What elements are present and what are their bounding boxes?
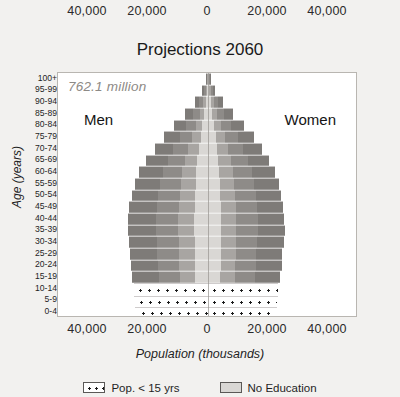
segment-education-stratum-outer [129,236,157,248]
segment-no-education [201,131,208,143]
bar-men-65-69 [146,155,208,167]
segment-education-stratum-mid [157,236,179,248]
bar-men-70-74 [155,143,208,155]
segment-no-education [199,143,208,155]
segment-no-education [195,248,208,260]
x-tick-0: 40,000 [67,322,106,336]
bar-men-55-59 [135,178,208,190]
segment-under15 [135,295,208,309]
pyramid-row [58,96,356,108]
segment-education-stratum-mid [236,213,257,225]
segment-education-stratum-inner [217,143,228,155]
segment-education-stratum-inner [221,213,236,225]
bar-women-65-69 [208,155,269,167]
age-tick-75-79: 75-79 [35,132,57,141]
segment-education-stratum-inner [220,178,234,190]
segment-education-stratum-mid [236,248,257,260]
x-axis-title: Population (thousands) [0,347,400,361]
age-tick-90-94: 90-94 [35,97,57,106]
segment-education-stratum-inner [179,260,194,272]
segment-no-education [195,236,208,248]
legend-swatch-1 [220,382,242,393]
bar-men-45-49 [129,201,208,213]
segment-education-stratum-mid [156,213,178,225]
segment-education-stratum-outer [185,108,193,120]
segment-education-stratum-outer [164,131,179,143]
segment-no-education [208,155,218,167]
y-axis-title: Age (years) [10,129,24,225]
bar-men-30-34 [129,236,208,248]
segment-no-education [208,260,221,272]
segment-education-stratum-outer [128,213,156,225]
segment-education-stratum-inner [192,131,201,143]
bar-women-40-44 [208,213,284,225]
bar-women-55-59 [208,178,279,190]
segment-no-education [208,166,219,178]
segment-education-stratum-outer [224,108,233,120]
chart-legend: Pop. < 15 yrsNo Education [0,378,400,397]
legend-item-1[interactable]: No Education [220,382,317,394]
segment-education-stratum-inner [221,248,236,260]
age-tick-70-74: 70-74 [35,144,57,153]
segment-no-education [208,213,221,225]
segment-education-stratum-mid [235,190,255,202]
pyramid-row [58,190,356,202]
age-tick-65-69: 65-69 [35,155,57,164]
bar-women-35-39 [208,225,285,237]
segment-under15 [208,283,278,297]
bar-men-25-29 [130,248,208,260]
segment-education-stratum-outer [256,190,282,202]
x-tick-3: 20,000 [247,322,286,336]
segment-education-stratum-inner [221,201,236,213]
age-tick-55-59: 55-59 [35,179,57,188]
segment-education-stratum-mid [236,236,257,248]
segment-education-stratum-inner [188,143,199,155]
age-tick-85-89: 85-89 [35,109,57,118]
segment-education-stratum-outer [155,143,174,155]
segment-under15 [134,283,208,297]
segment-education-stratum-inner [180,271,195,283]
segment-education-stratum-outer [218,96,223,108]
segment-education-stratum-inner [221,260,236,272]
segment-education-stratum-outer [257,201,283,213]
segment-education-stratum-inner [221,236,236,248]
segment-education-stratum-mid [158,190,179,202]
segment-education-stratum-inner [179,236,195,248]
segment-education-stratum-inner [220,271,234,283]
bar-men-40-44 [128,213,208,225]
segment-no-education [194,213,208,225]
segment-education-stratum-outer [238,131,254,143]
pyramid-row [58,260,356,272]
segment-education-stratum-outer [128,225,156,237]
segment-education-stratum-outer [243,143,262,155]
pyramid-row [58,178,356,190]
legend-item-0[interactable]: Pop. < 15 yrs [83,382,179,394]
segment-education-stratum-outer [256,260,282,272]
pyramid-row [58,201,356,213]
segment-education-stratum-mid [163,166,182,178]
segment-no-education [196,166,208,178]
segment-education-stratum-outer [213,85,216,97]
bar-men-90-94 [195,96,208,108]
segment-education-stratum-outer [174,120,186,132]
age-tick-80-84: 80-84 [35,120,57,129]
segment-education-stratum-mid [156,225,179,237]
segment-no-education [195,201,208,213]
bar-women-15-19 [208,271,280,283]
bar-men-80-84 [174,120,208,132]
bar-women-60-64 [208,166,275,178]
top-x-axis: 40,00020,000020,00040,000 [57,4,357,26]
segment-education-stratum-outer [132,190,159,202]
segment-education-stratum-mid [235,260,256,272]
segment-education-stratum-inner [196,120,203,132]
pyramid-row [58,283,356,295]
segment-education-stratum-outer [252,166,276,178]
segment-education-stratum-outer [254,178,279,190]
segment-no-education [208,248,221,260]
segment-education-stratum-outer [132,271,158,283]
x-tick-2: 0 [203,4,210,18]
x-tick-4: 40,000 [307,4,346,18]
age-tick-15-19: 15-19 [35,272,57,281]
bar-women-25-29 [208,248,282,260]
age-tick-40-44: 40-44 [35,214,57,223]
